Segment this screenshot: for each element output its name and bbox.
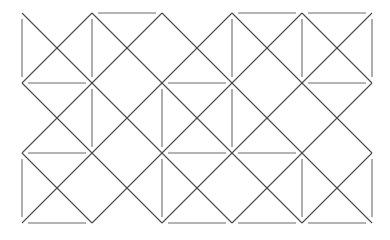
lattice-pattern-figure xyxy=(0,0,390,240)
